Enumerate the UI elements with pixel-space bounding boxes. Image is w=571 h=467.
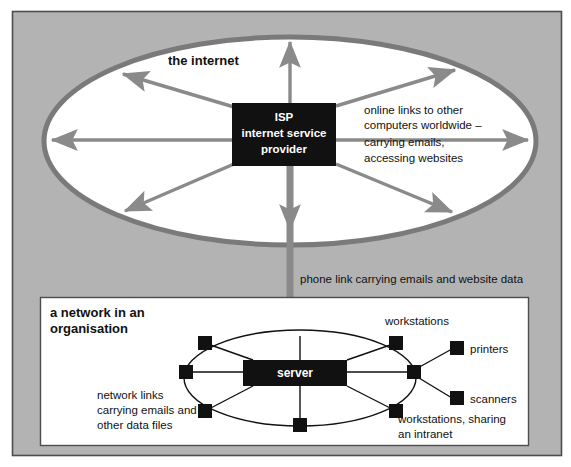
label-scanners: scanners bbox=[470, 393, 517, 405]
internet-annotation-line-3: carrying emails, bbox=[364, 136, 445, 148]
isp-box-line3: provider bbox=[261, 143, 308, 155]
node-workstation-bottom-left bbox=[198, 404, 212, 418]
label-printers: printers bbox=[470, 343, 509, 355]
label-workstations-intranet-line-1: workstations, sharing bbox=[397, 413, 506, 425]
label-network-links-line-2: carrying emails and bbox=[97, 404, 197, 416]
node-printer bbox=[450, 341, 464, 355]
node-workstation-left bbox=[179, 365, 193, 379]
diagram-root: ISP internet service provider the intern… bbox=[0, 0, 571, 467]
server-box-label: server bbox=[277, 366, 313, 380]
node-workstation-bottom bbox=[293, 418, 307, 432]
label-network-links-line-3: other data files bbox=[97, 419, 173, 431]
label-network-links-line-1: network links bbox=[97, 389, 164, 401]
internet-title: the internet bbox=[168, 53, 239, 68]
organisation-title-line-2: organisation bbox=[50, 321, 128, 336]
phone-link-caption: phone link carrying emails and website d… bbox=[300, 273, 524, 285]
node-hub-right bbox=[407, 365, 421, 379]
label-workstations-top: workstations bbox=[384, 315, 449, 327]
isp-box-line1: ISP bbox=[275, 111, 294, 123]
node-workstation-top-left bbox=[198, 336, 212, 350]
internet-annotation-line-2: computers worldwide – bbox=[364, 119, 482, 131]
node-workstation-top-right bbox=[389, 336, 403, 350]
internet-annotation-line-1: online links to other bbox=[364, 104, 463, 116]
internet-annotation-line-4: accessing websites bbox=[364, 152, 463, 164]
node-scanner bbox=[450, 391, 464, 405]
isp-box-line2: internet service bbox=[241, 127, 326, 139]
label-workstations-intranet-line-2: an intranet bbox=[398, 428, 453, 440]
network-diagram: ISP internet service provider the intern… bbox=[0, 0, 571, 467]
organisation-title-line-1: a network in an bbox=[50, 305, 145, 320]
